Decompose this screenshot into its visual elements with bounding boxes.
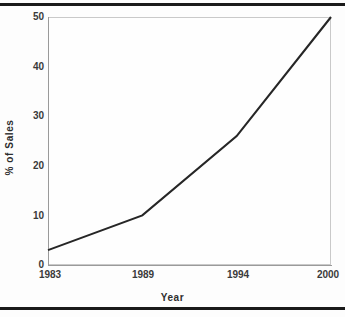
y-tick-label-40: 40 [2, 62, 44, 72]
x-tick-label-1994: 1994 [227, 269, 249, 280]
y-axis-title: % of Sales [4, 108, 15, 188]
data-series-line [48, 17, 331, 265]
page-rule-top [0, 3, 345, 6]
x-tick-label-2000: 2000 [317, 269, 339, 280]
x-tick-label-1983: 1983 [39, 269, 61, 280]
y-tick-label-10: 10 [2, 211, 44, 221]
chart-figure: 50 40 30 20 10 0 1983 1989 1994 2000 % o… [0, 0, 345, 317]
y-tick-label-0: 0 [2, 260, 44, 270]
x-tick-label-1989: 1989 [132, 269, 154, 280]
x-axis-spine [48, 265, 332, 266]
x-axis-title: Year [0, 292, 345, 303]
page-rule-bottom [0, 307, 345, 310]
y-tick-label-50: 50 [2, 12, 44, 22]
